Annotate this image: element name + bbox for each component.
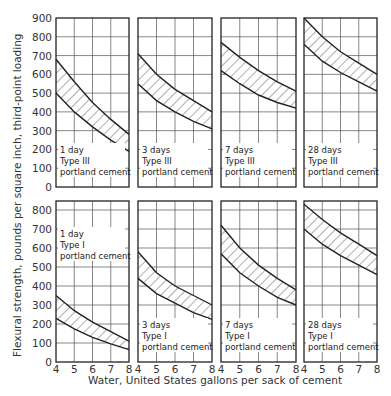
panel-type-i-7-days: 7 daysType Iportland cement45678 (218, 201, 300, 375)
y-tick-label: 100 (32, 162, 52, 174)
panel-label-line: Type I (59, 240, 85, 250)
panel-type-i-3-days: 3 daysType Iportland cement45678 (135, 201, 216, 375)
y-tick-label: 600 (32, 68, 52, 80)
y-tick-label: 200 (32, 143, 52, 155)
panel-label-line: Type III (224, 156, 255, 166)
y-tick-label: 700 (32, 223, 52, 235)
panel-label-line: Type III (307, 156, 338, 166)
panel-label-line: portland cement (60, 167, 131, 177)
y-tick-label: 300 (32, 125, 52, 137)
panel-label-line: 1 day (60, 229, 84, 239)
y-tick-label: 800 (32, 204, 52, 216)
panel-label-line: Type I (307, 331, 333, 341)
y-axis-label: Flexural strength, pounds per square inc… (11, 37, 25, 357)
panel-label-line: 3 days (142, 145, 171, 155)
y-tick-label: 700 (32, 50, 52, 62)
panel-type-iii-28-days: 28 daysType IIIportland cement (304, 18, 379, 187)
panel-type-i-28-days: 28 daysType Iportland cement45678 (301, 201, 381, 375)
panel-label-line: portland cement (225, 342, 296, 352)
y-tick-label: 500 (32, 87, 52, 99)
panel-label-line: portland cement (308, 167, 379, 177)
y-tick-label: 500 (32, 261, 52, 273)
y-tick-label: 100 (32, 337, 52, 349)
panel-type-iii-1-day: 1 dayType IIIportland cement010020030040… (32, 12, 131, 193)
panel-label-line: 28 days (308, 320, 342, 330)
panel-label-line: portland cement (142, 167, 213, 177)
y-tick-label: 0 (45, 181, 52, 193)
panels-group: 1 dayType IIIportland cement010020030040… (32, 12, 380, 375)
y-tick-label: 400 (32, 280, 52, 292)
panel-label-line: Type III (59, 156, 90, 166)
y-tick-label: 200 (32, 318, 52, 330)
panel-label-line: 28 days (308, 145, 342, 155)
y-tick-label: 400 (32, 106, 52, 118)
panel-label-line: 3 days (142, 320, 171, 330)
panel-label-line: 7 days (225, 320, 254, 330)
panel-label-line: portland cement (142, 342, 213, 352)
panel-type-iii-3-days: 3 daysType IIIportland cement (138, 18, 213, 187)
panel-label-line: 1 day (60, 145, 84, 155)
panel-label-line: Type III (141, 156, 172, 166)
panel-label-line: 7 days (225, 145, 254, 155)
y-tick-label: 900 (32, 12, 52, 24)
x-axis-label: Water, United States gallons per sack of… (40, 374, 390, 386)
panel-type-iii-7-days: 7 daysType IIIportland cement (221, 18, 296, 187)
panel-type-i-1-day: 1 dayType Iportland cement01002003004005… (32, 201, 132, 375)
y-tick-label: 0 (45, 356, 52, 368)
panel-label-line: portland cement (225, 167, 296, 177)
y-tick-label: 300 (32, 299, 52, 311)
y-tick-label: 600 (32, 242, 52, 254)
chart-figure: 1 dayType IIIportland cement010020030040… (0, 0, 391, 396)
y-tick-label: 800 (32, 31, 52, 43)
panel-label-line: portland cement (308, 342, 379, 352)
panel-label-line: Type I (141, 331, 167, 341)
panel-label-line: Type I (224, 331, 250, 341)
panel-label-line: portland cement (60, 251, 131, 261)
